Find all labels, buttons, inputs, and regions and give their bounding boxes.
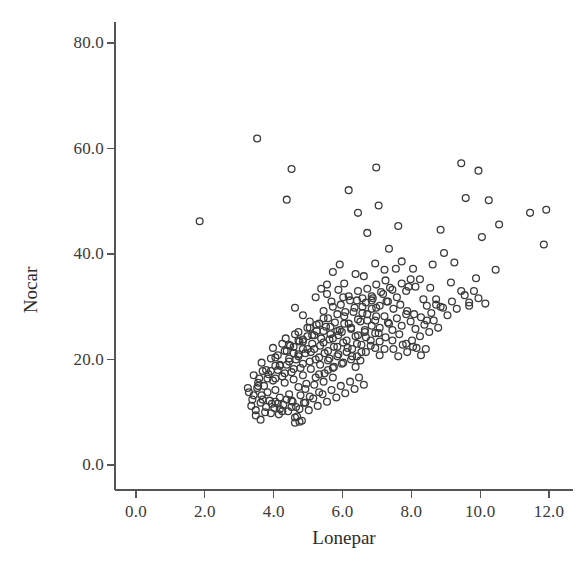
- y-tick-label: 80.0: [30, 33, 104, 53]
- data-point: [375, 202, 382, 209]
- data-point: [422, 346, 429, 353]
- x-tick-label: 8.0: [400, 502, 422, 522]
- data-point: [272, 387, 279, 394]
- data-point: [329, 374, 336, 381]
- x-tick-label: 6.0: [332, 502, 354, 522]
- data-point: [418, 352, 425, 359]
- y-tick-label: 60.0: [30, 139, 104, 159]
- x-tick-label: 4.0: [263, 502, 285, 522]
- data-point: [382, 277, 389, 284]
- data-point: [355, 209, 362, 216]
- data-point: [412, 326, 419, 333]
- data-point: [482, 300, 489, 307]
- data-point: [397, 301, 404, 308]
- data-point: [410, 265, 417, 272]
- data-point: [279, 340, 286, 347]
- data-point: [268, 355, 275, 362]
- data-point: [257, 416, 264, 423]
- data-point: [364, 230, 371, 237]
- data-points-group: [196, 135, 549, 426]
- data-point: [381, 313, 388, 320]
- data-point: [288, 166, 295, 173]
- data-point: [318, 285, 325, 292]
- data-point: [334, 311, 341, 318]
- data-point: [307, 366, 314, 373]
- x-tick-label: 10.0: [465, 502, 496, 522]
- data-point: [347, 297, 354, 304]
- data-point: [336, 261, 343, 268]
- data-point: [429, 261, 436, 268]
- data-point: [360, 381, 367, 388]
- data-point: [407, 318, 414, 325]
- data-point: [343, 349, 350, 356]
- data-point: [423, 302, 430, 309]
- data-point: [363, 349, 370, 356]
- plot-canvas: [0, 0, 588, 576]
- data-point: [543, 206, 550, 213]
- data-point: [351, 304, 358, 311]
- data-point: [335, 286, 342, 293]
- data-point: [393, 315, 400, 322]
- data-point: [270, 344, 277, 351]
- data-point: [398, 258, 405, 265]
- axes-lines: [115, 22, 573, 490]
- data-point: [290, 376, 297, 383]
- data-point: [393, 294, 400, 301]
- data-point: [444, 312, 451, 319]
- data-point: [356, 374, 363, 381]
- data-point: [311, 381, 318, 388]
- data-point: [333, 394, 340, 401]
- data-point: [373, 313, 380, 320]
- data-point: [341, 280, 348, 287]
- data-point: [196, 218, 203, 225]
- data-point: [420, 296, 427, 303]
- data-point: [475, 167, 482, 174]
- y-tick-label: 0.0: [30, 455, 104, 475]
- x-axis-title: Lonepar: [312, 527, 375, 549]
- data-point: [342, 390, 349, 397]
- data-point: [373, 164, 380, 171]
- data-point: [312, 294, 319, 301]
- data-point: [351, 386, 358, 393]
- data-point: [314, 403, 321, 410]
- data-point: [368, 305, 375, 312]
- data-point: [471, 288, 478, 295]
- data-point: [492, 266, 499, 273]
- data-point: [360, 273, 367, 280]
- data-point: [337, 301, 344, 308]
- data-point: [428, 310, 435, 317]
- data-point: [295, 384, 302, 391]
- data-point: [478, 234, 485, 241]
- tick-marks: [107, 43, 549, 498]
- data-point: [473, 275, 480, 282]
- data-point: [337, 382, 344, 389]
- data-point: [325, 357, 332, 364]
- y-tick-label: 40.0: [30, 244, 104, 264]
- data-point: [376, 352, 383, 359]
- data-point: [398, 280, 405, 287]
- data-point: [451, 259, 458, 266]
- data-point: [448, 279, 455, 286]
- data-point: [347, 378, 354, 385]
- data-point: [355, 288, 362, 295]
- data-point: [324, 398, 331, 405]
- data-point: [411, 311, 418, 318]
- data-point: [300, 372, 307, 379]
- data-point: [407, 276, 414, 283]
- data-point: [540, 241, 547, 248]
- y-tick-label: 20.0: [30, 350, 104, 370]
- data-point: [358, 341, 365, 348]
- data-point: [320, 378, 327, 385]
- data-point: [352, 271, 359, 278]
- data-point: [381, 346, 388, 353]
- data-point: [300, 312, 307, 319]
- data-point: [316, 320, 323, 327]
- data-point: [283, 196, 290, 203]
- data-point: [324, 291, 331, 298]
- data-point: [430, 317, 437, 324]
- data-point: [372, 260, 379, 267]
- data-point: [292, 304, 299, 311]
- data-point: [297, 392, 304, 399]
- data-point: [258, 359, 265, 366]
- data-point: [437, 226, 444, 233]
